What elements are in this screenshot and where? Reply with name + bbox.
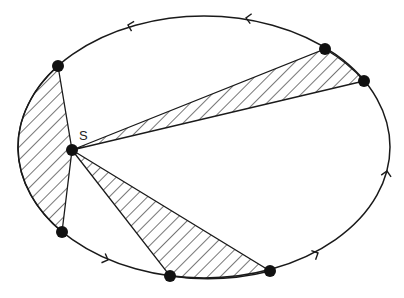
planet-point-p2 (56, 226, 68, 238)
swept-area-bottom (72, 150, 270, 279)
keplers-law-diagram: S (0, 0, 404, 298)
sun-focus-point (66, 144, 78, 156)
planet-point-p3 (164, 270, 176, 282)
swept-area-right (72, 49, 364, 150)
planet-point-p5 (358, 75, 370, 87)
planet-point-p1 (52, 60, 64, 72)
arrow-top-right-icon (245, 13, 251, 24)
planet-point-p6 (319, 43, 331, 55)
sun-label: S (79, 128, 88, 143)
planet-point-p4 (264, 265, 276, 277)
swept-area-left (18, 66, 72, 232)
